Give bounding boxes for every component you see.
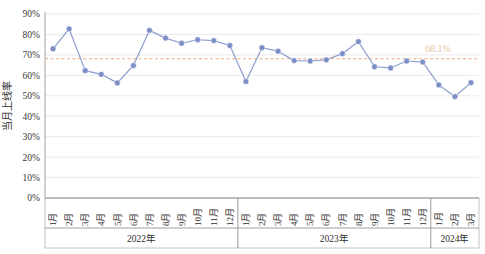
x-tick-label: 11月	[402, 208, 412, 226]
data-point-marker[interactable]	[243, 79, 249, 85]
y-tick-label: 80%	[23, 30, 41, 40]
x-axis-category-labels: 1月2月3月4月5月6月7月8月9月10月11月12月1月2月3月4月5月6月7…	[48, 208, 476, 226]
x-tick-label: 10月	[193, 208, 203, 226]
y-tick-label: 40%	[23, 112, 41, 122]
data-point-marker[interactable]	[50, 46, 56, 52]
x-tick-label: 4月	[96, 213, 106, 227]
data-point-marker[interactable]	[339, 51, 345, 57]
y-tick-label: 10%	[23, 173, 41, 183]
x-group-label: 2022年	[127, 233, 156, 244]
data-point-marker[interactable]	[211, 38, 217, 44]
data-point-marker[interactable]	[372, 64, 378, 70]
y-tick-label: 0%	[27, 193, 40, 203]
data-point-marker[interactable]	[436, 82, 442, 88]
y-axis-tick-labels: 0%10%20%30%40%50%60%70%80%90%	[23, 9, 41, 203]
data-point-marker[interactable]	[291, 58, 297, 64]
data-point-marker[interactable]	[323, 57, 329, 63]
x-tick-label: 5月	[113, 212, 123, 226]
data-point-marker[interactable]	[388, 65, 394, 71]
x-tick-label: 3月	[273, 212, 283, 226]
series-markers[interactable]	[50, 26, 474, 99]
grid-lines	[45, 14, 479, 198]
x-tick-label: 7月	[338, 212, 348, 226]
x-group-label: 2024年	[440, 233, 469, 244]
x-tick-label: 8月	[354, 212, 364, 226]
data-point-marker[interactable]	[356, 39, 362, 45]
x-tick-label: 1月	[48, 213, 58, 227]
y-tick-label: 20%	[23, 153, 41, 163]
data-point-marker[interactable]	[195, 37, 201, 43]
y-tick-label: 70%	[23, 50, 41, 60]
y-tick-label: 30%	[23, 132, 41, 142]
data-point-marker[interactable]	[66, 26, 72, 32]
data-point-marker[interactable]	[307, 58, 313, 64]
x-tick-label: 12月	[225, 208, 235, 226]
y-axis-title-text: 当月上线率	[1, 81, 13, 131]
x-tick-label: 11月	[209, 208, 219, 226]
x-tick-label: 3月	[466, 212, 476, 226]
data-point-marker[interactable]	[275, 48, 281, 54]
data-point-marker[interactable]	[179, 40, 185, 46]
x-tick-label: 12月	[418, 208, 428, 226]
x-tick-label: 9月	[370, 213, 380, 227]
data-point-marker[interactable]	[82, 68, 88, 74]
x-tick-label: 5月	[305, 212, 315, 226]
reference-line-label: 68.1%	[425, 43, 451, 54]
x-tick-label: 8月	[161, 213, 171, 227]
data-point-marker[interactable]	[420, 59, 426, 65]
data-point-marker[interactable]	[452, 94, 458, 100]
x-tick-label: 3月	[80, 213, 90, 227]
x-tick-label: 6月	[129, 213, 139, 227]
x-tick-label: 9月	[177, 213, 187, 227]
data-point-marker[interactable]	[163, 35, 169, 41]
data-point-marker[interactable]	[404, 58, 410, 64]
x-tick-label: 2月	[257, 213, 267, 227]
x-tick-label: 1月	[241, 213, 251, 226]
data-point-marker[interactable]	[98, 71, 104, 77]
x-group-label: 2023年	[320, 233, 349, 244]
x-tick-label: 10月	[386, 208, 396, 226]
x-tick-label: 1月	[434, 212, 444, 226]
y-tick-label: 90%	[23, 9, 41, 19]
data-point-marker[interactable]	[227, 43, 233, 49]
data-point-marker[interactable]	[131, 63, 137, 69]
data-point-marker[interactable]	[468, 80, 474, 86]
x-tick-label: 6月	[322, 213, 332, 227]
line-chart: 0%10%20%30%40%50%60%70%80%90% 当月上线率 68.1…	[0, 0, 485, 254]
data-point-marker[interactable]	[114, 80, 120, 86]
x-group-row-frame	[45, 228, 479, 248]
y-axis-title: 当月上线率	[1, 81, 13, 131]
chart-container: 0%10%20%30%40%50%60%70%80%90% 当月上线率 68.1…	[0, 0, 485, 254]
x-tick-label: 7月	[145, 212, 155, 226]
x-axis-group-labels: 2022年2023年2024年	[127, 233, 469, 244]
y-tick-label: 60%	[23, 71, 41, 81]
x-tick-label: 2月	[64, 212, 74, 226]
data-point-marker[interactable]	[259, 45, 265, 51]
x-tick-label: 4月	[289, 213, 299, 227]
data-point-marker[interactable]	[147, 27, 153, 33]
y-tick-label: 50%	[23, 91, 41, 101]
x-tick-label: 2月	[450, 213, 460, 227]
